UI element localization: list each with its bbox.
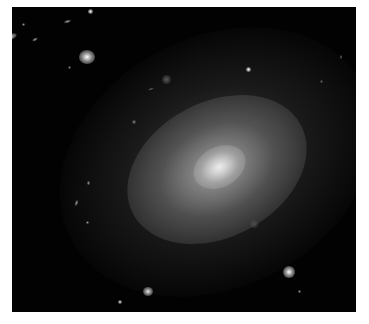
star-object [298, 290, 301, 293]
galaxy-image [12, 7, 356, 312]
galaxy-object [32, 37, 39, 43]
star-object [87, 181, 90, 185]
star-object [118, 300, 122, 304]
galaxy-bright-object [79, 50, 95, 64]
star-object [22, 23, 25, 26]
star-object [132, 120, 136, 124]
star-object [340, 55, 342, 59]
galaxy-object [250, 220, 258, 228]
galaxy-object [64, 19, 72, 24]
star-object [86, 221, 89, 224]
star-object [320, 80, 323, 83]
star-object [68, 66, 71, 69]
star-object [246, 67, 251, 72]
galaxy-elongated-object [12, 32, 18, 42]
galaxy-bright-object [283, 266, 295, 278]
star-object [88, 9, 93, 14]
galaxy-object [162, 75, 171, 84]
galaxy-bright-object [143, 287, 153, 296]
